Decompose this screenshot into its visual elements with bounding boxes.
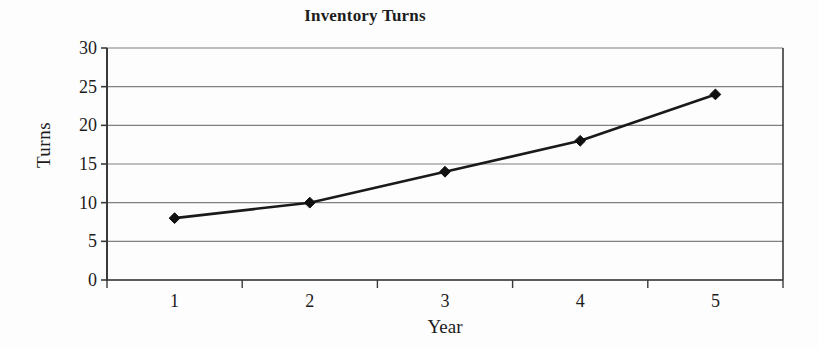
x-tick-label: 5 [695, 292, 735, 310]
y-tick-label: 30 [55, 39, 97, 57]
y-tick-label: 15 [55, 155, 97, 173]
y-tick-label: 5 [55, 232, 97, 250]
x-tick-label: 2 [290, 292, 330, 310]
series-line-group [175, 94, 716, 218]
x-tick-label: 1 [155, 292, 195, 310]
gridlines-group [107, 48, 783, 280]
x-tick-label: 4 [560, 292, 600, 310]
data-point-marker [304, 197, 315, 208]
data-point-marker [575, 135, 586, 146]
tick-marks-group [101, 48, 783, 288]
data-point-marker [169, 213, 180, 224]
chart-page: Inventory Turns Turns Year 051015202530 … [0, 0, 819, 349]
x-tick-label: 3 [425, 292, 465, 310]
data-point-marker [710, 89, 721, 100]
plot-area: Turns Year 051015202530 12345 [0, 0, 819, 349]
series-line [175, 94, 716, 218]
data-point-marker [440, 166, 451, 177]
y-tick-label: 25 [55, 78, 97, 96]
y-tick-label: 20 [55, 116, 97, 134]
series-markers-group [169, 89, 721, 224]
y-tick-label: 0 [55, 271, 97, 289]
y-tick-label: 10 [55, 194, 97, 212]
